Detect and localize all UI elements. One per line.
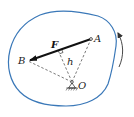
diagram-canvas: A B O F h xyxy=(0,0,134,117)
label-point-a: A xyxy=(93,33,101,44)
dashed-line-o-b xyxy=(28,61,72,82)
pin-support-icon xyxy=(66,81,78,91)
moment-diagram: A B O F h xyxy=(0,0,134,117)
label-point-b: B xyxy=(17,55,25,66)
point-a-marker xyxy=(90,38,93,41)
label-point-o: O xyxy=(78,80,86,91)
label-distance-h: h xyxy=(67,56,73,67)
label-force-f: F xyxy=(50,39,59,50)
rotation-arrow-icon xyxy=(118,33,123,67)
force-vector-f xyxy=(30,39,91,60)
